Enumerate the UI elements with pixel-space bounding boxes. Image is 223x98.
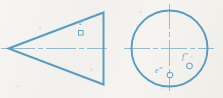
point-marker-f-double-prime	[187, 63, 193, 69]
label-f-double-prime: f″	[182, 53, 188, 61]
technical-drawing-canvas	[0, 0, 223, 98]
drawing-sheet: e′ e″ f″	[0, 0, 223, 98]
label-e-prime: e′	[79, 19, 85, 27]
point-marker-e-prime	[79, 31, 84, 36]
top-view-center-lines	[124, 4, 216, 93]
label-e-double-prime: e″	[155, 67, 162, 75]
